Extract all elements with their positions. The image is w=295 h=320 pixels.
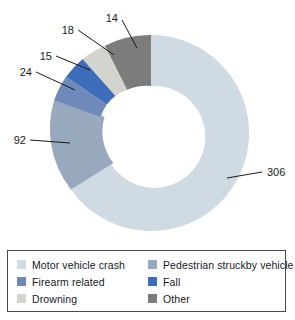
legend-item-firearm-related[interactable]: Firearm related bbox=[8, 276, 139, 288]
legend: Motor vehicle crash Pedestrian struckby … bbox=[7, 250, 286, 312]
legend-item-label: Motor vehicle crash bbox=[32, 259, 125, 271]
legend-item-other[interactable]: Other bbox=[139, 293, 287, 305]
donut-chart-svg: 306 92 24 15 18 14 bbox=[0, 0, 295, 248]
value-label-motor-vehicle-crash: 306 bbox=[267, 166, 285, 178]
legend-item-drowning[interactable]: Drowning bbox=[8, 293, 139, 305]
value-label-drowning: 18 bbox=[62, 24, 74, 36]
legend-item-fall[interactable]: Fall bbox=[139, 276, 287, 288]
legend-item-label: Firearm related bbox=[32, 276, 105, 288]
legend-swatch-icon bbox=[148, 277, 157, 286]
legend-swatch-icon bbox=[17, 277, 26, 286]
value-label-other: 14 bbox=[106, 12, 118, 24]
legend-item-label: Pedestrian struckby vehicle bbox=[163, 259, 294, 271]
legend-swatch-icon bbox=[148, 294, 157, 303]
legend-item-label: Other bbox=[163, 293, 190, 305]
legend-swatch-icon bbox=[148, 260, 157, 269]
value-label-firearm-related: 24 bbox=[20, 66, 32, 78]
legend-item-label: Drowning bbox=[32, 293, 77, 305]
legend-swatch-icon bbox=[17, 294, 26, 303]
legend-item-pedestrian-struckby-vehicle[interactable]: Pedestrian struckby vehicle bbox=[139, 259, 287, 271]
legend-item-label: Fall bbox=[163, 276, 180, 288]
legend-item-motor-vehicle-crash[interactable]: Motor vehicle crash bbox=[8, 259, 139, 271]
value-label-fall: 15 bbox=[40, 50, 52, 62]
legend-swatch-icon bbox=[17, 260, 26, 269]
value-label-pedestrian-struckby-vehicle: 92 bbox=[14, 134, 26, 146]
donut-chart: 306 92 24 15 18 14 bbox=[0, 0, 295, 248]
